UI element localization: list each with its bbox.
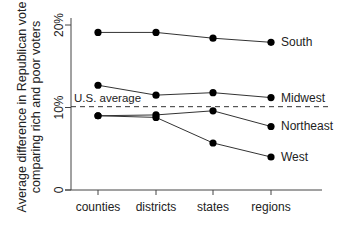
data-point: [209, 107, 216, 114]
x-tick-label: states: [197, 200, 229, 214]
data-point: [209, 35, 216, 42]
data-point: [267, 94, 274, 101]
data-point: [267, 123, 274, 130]
y-axis-label: comparing rich and poor voters: [29, 21, 43, 193]
series-line-south: [98, 32, 271, 42]
data-point: [152, 92, 159, 99]
y-tick-label: 0: [52, 186, 66, 193]
x-tick-label: districts: [136, 200, 177, 214]
data-point: [209, 89, 216, 96]
data-point: [152, 114, 159, 121]
data-point: [267, 39, 274, 46]
series-line-northeast: [98, 111, 271, 127]
data-point: [94, 29, 101, 36]
series-label: West: [281, 150, 309, 164]
data-point: [267, 153, 274, 160]
data-point: [94, 112, 101, 119]
y-axis-label: Average difference in Republican vote: [15, 2, 29, 213]
data-point: [152, 29, 159, 36]
series-line-west: [98, 116, 271, 157]
series-label: Midwest: [281, 91, 326, 105]
data-point: [94, 82, 101, 89]
y-tick-label: 20%: [52, 13, 66, 37]
line-chart: 010%20%countiesdistrictsstatesregionsAve…: [0, 0, 342, 225]
x-tick-label: regions: [251, 200, 290, 214]
series-label: South: [281, 35, 312, 49]
y-tick-label: 10%: [52, 95, 66, 119]
us-average-label: U.S. average: [74, 92, 141, 104]
data-point: [209, 139, 216, 146]
series-label: Northeast: [281, 119, 334, 133]
x-tick-label: counties: [76, 200, 121, 214]
